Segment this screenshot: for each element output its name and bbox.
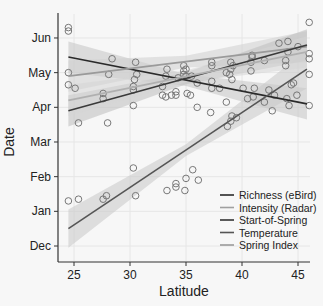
y-tick-label: Jun <box>32 31 51 45</box>
data-point <box>182 187 189 194</box>
legend-label: Temperature <box>239 227 298 239</box>
legend-label: Richness (eBird) <box>239 189 317 201</box>
x-ticks: 2530354045 <box>67 262 305 282</box>
y-tick-label: Feb <box>30 170 51 184</box>
y-ticks: JunMayAprMarFebJanDec <box>28 31 58 253</box>
legend: Richness (eBird)Intensity (Radar)Start-o… <box>220 189 317 251</box>
data-point <box>306 19 313 26</box>
y-tick-label: Dec <box>30 239 51 253</box>
data-point <box>104 120 111 127</box>
data-point <box>195 177 202 184</box>
legend-label: Start-of-Spring <box>239 214 307 226</box>
y-tick-label: Jan <box>32 204 51 218</box>
y-tick-label: May <box>28 66 51 80</box>
x-tick-label: 40 <box>235 268 249 282</box>
y-tick-label: Mar <box>30 135 51 149</box>
data-point <box>130 102 137 109</box>
data-point <box>130 165 137 172</box>
legend-label: Intensity (Radar) <box>239 202 317 214</box>
data-point <box>207 109 214 116</box>
legend-label: Spring Index <box>239 239 299 251</box>
data-point <box>164 187 171 194</box>
y-tick-label: Apr <box>32 100 51 114</box>
x-tick-label: 45 <box>291 268 305 282</box>
x-axis-title: Latitude <box>159 283 209 299</box>
data-point <box>189 166 196 173</box>
data-point <box>65 198 72 205</box>
x-tick-label: 25 <box>67 268 81 282</box>
x-tick-label: 30 <box>123 268 137 282</box>
data-point <box>75 196 82 203</box>
y-axis-title: Date <box>1 127 17 157</box>
chart: JunMayAprMarFebJanDec 2530354045 Latitud… <box>0 0 323 306</box>
data-point <box>223 99 230 106</box>
x-tick-label: 35 <box>179 268 193 282</box>
